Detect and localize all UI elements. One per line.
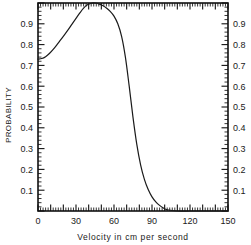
x-axis-title: Velocity in cm per second: [77, 232, 188, 242]
y-tick-label-right: 0.3: [233, 144, 246, 154]
y-tick-label-left: 0.3: [20, 144, 33, 154]
x-tick-label: 120: [182, 216, 197, 226]
y-tick-label-right: 0.8: [233, 40, 246, 50]
x-tick-label: 0: [35, 216, 40, 226]
probability-velocity-chart: 0306090120150 0.10.20.30.40.50.60.70.80.…: [0, 0, 251, 245]
y-axis-right-tick-labels: 0.10.20.30.40.50.60.70.80.9: [233, 19, 246, 195]
y-tick-label-right: 0.4: [233, 123, 246, 133]
y-tick-label-right: 0.5: [233, 102, 246, 112]
y-tick-label-left: 0.5: [20, 102, 33, 112]
y-tick-label-right: 0.6: [233, 82, 246, 92]
y-tick-label-right: 0.2: [233, 165, 246, 175]
y-tick-label-right: 0.1: [233, 186, 246, 196]
y-axis-title: PROBABILITY: [4, 87, 13, 143]
x-tick-label: 90: [147, 216, 157, 226]
y-tick-label-left: 0.8: [20, 40, 33, 50]
y-axis-left-tick-labels: 0.10.20.30.40.50.60.70.80.9: [20, 19, 33, 195]
y-tick-label-left: 0.9: [20, 19, 33, 29]
y-tick-label-right: 0.9: [233, 19, 246, 29]
y-tick-label-left: 0.4: [20, 123, 33, 133]
y-tick-label-left: 0.6: [20, 82, 33, 92]
x-tick-label: 60: [109, 216, 119, 226]
y-tick-label-left: 0.1: [20, 186, 33, 196]
y-tick-label-left: 0.2: [20, 165, 33, 175]
x-tick-label: 30: [71, 216, 81, 226]
y-tick-label-right: 0.7: [233, 61, 246, 71]
x-tick-label: 150: [220, 216, 235, 226]
y-tick-label-left: 0.7: [20, 61, 33, 71]
